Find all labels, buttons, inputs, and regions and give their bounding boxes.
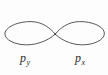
momentum-x-subscript: x [82, 58, 86, 67]
lemniscate-left-lobe-path [5, 22, 55, 45]
lemniscate-path-group [5, 22, 105, 45]
lemniscate-curve-svg [0, 0, 108, 75]
lemniscate-crossing-point [54, 33, 56, 35]
momentum-y-base: p [20, 51, 26, 65]
lemniscate-figure: py px [0, 0, 108, 75]
momentum-y-subscript: y [27, 58, 31, 67]
momentum-x-label: px [75, 52, 85, 67]
momentum-x-base: p [75, 51, 81, 65]
lemniscate-right-lobe-path [55, 22, 104, 45]
momentum-y-label: py [20, 52, 30, 67]
